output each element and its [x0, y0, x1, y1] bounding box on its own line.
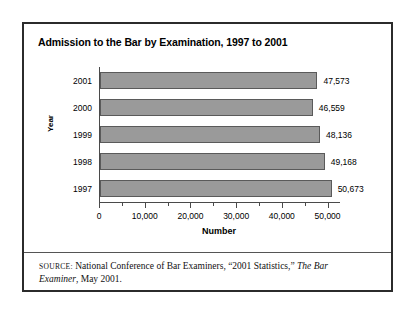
- bar-2001: [100, 72, 317, 89]
- source-text-part-2: , May 2001.: [76, 274, 122, 284]
- figure-frame: Admission to the Bar by Examination, 199…: [22, 22, 393, 292]
- bar-value-label: 47,573: [323, 76, 349, 86]
- x-tick-minor: [259, 202, 260, 206]
- bar-row: 50,673: [100, 175, 340, 202]
- x-tick-minor: [213, 202, 214, 206]
- bar-value-label: 49,168: [331, 157, 357, 167]
- bar-row: 46,559: [100, 94, 340, 121]
- x-tick-label: 0: [97, 211, 102, 221]
- x-tick-major: [282, 202, 283, 208]
- x-tick-label: 30,000: [223, 211, 249, 221]
- plot-area: 47,573 46,559 48,136 49,168 50,673: [99, 67, 340, 202]
- bar-2000: [100, 99, 313, 116]
- bar-series: 47,573 46,559 48,136 49,168 50,673: [100, 67, 340, 202]
- x-tick-minor: [122, 202, 123, 206]
- y-tick-label: 1998: [54, 148, 96, 175]
- bar-1998: [100, 153, 325, 170]
- x-tick-label: 10,000: [132, 211, 158, 221]
- y-tick-label: 2000: [54, 94, 96, 121]
- y-tick-label: 1999: [54, 121, 96, 148]
- y-axis-tick-labels: 2001 2000 1999 1998 1997: [54, 67, 96, 202]
- y-tick-label: 1997: [54, 175, 96, 202]
- x-tick-major: [190, 202, 191, 208]
- y-tick-label: 2001: [54, 67, 96, 94]
- x-tick-major: [145, 202, 146, 208]
- bar-value-label: 46,559: [319, 103, 345, 113]
- x-axis-ticks: [99, 202, 339, 209]
- x-tick-minor: [168, 202, 169, 206]
- source-label: SOURCE:: [39, 262, 73, 271]
- x-tick-label: 40,000: [269, 211, 295, 221]
- bar-1999: [100, 126, 320, 143]
- x-tick-major: [328, 202, 329, 208]
- bar-1997: [100, 180, 332, 197]
- x-tick-label: 20,000: [177, 211, 203, 221]
- bar-value-label: 48,136: [326, 130, 352, 140]
- x-tick-label: 50,000: [315, 211, 341, 221]
- x-tick-major: [99, 202, 100, 208]
- x-tick-major: [236, 202, 237, 208]
- x-axis-title: Number: [99, 226, 339, 236]
- chart-title: Admission to the Bar by Examination, 199…: [38, 36, 288, 48]
- chart-plot-region: Year 2001 2000 1999 1998 1997 47,573 46,…: [24, 64, 391, 254]
- source-note: SOURCE: National Conference of Bar Exami…: [39, 260, 369, 286]
- x-tick-minor: [305, 202, 306, 206]
- bar-value-label: 50,673: [338, 184, 364, 194]
- source-text-part-1: National Conference of Bar Examiners, “2…: [73, 261, 297, 271]
- source-divider: [24, 252, 391, 253]
- x-axis-tick-labels: 010,00020,00030,00040,00050,000: [99, 211, 339, 223]
- bar-row: 47,573: [100, 67, 340, 94]
- bar-row: 49,168: [100, 148, 340, 175]
- bar-row: 48,136: [100, 121, 340, 148]
